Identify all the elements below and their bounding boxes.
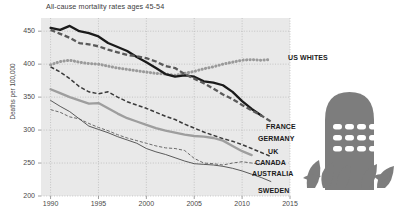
x-tick-label: 2005 [177, 200, 211, 207]
series-label-australia: AUSTRALIA [252, 170, 293, 177]
tombstone-icon [303, 84, 396, 190]
x-tick-label: 1990 [34, 200, 68, 207]
y-tick-label: 350 [9, 93, 35, 100]
x-tick-label: 2015 [273, 200, 307, 207]
y-tick-label: 400 [9, 60, 35, 67]
y-tick-label: 300 [9, 126, 35, 133]
series-label-sweden: SWEDEN [258, 187, 289, 194]
y-tick-label: 250 [9, 159, 35, 166]
chart-title: All-cause mortality rates ages 45-54 [46, 2, 164, 11]
series-label-germany: GERMANY [258, 135, 294, 142]
mortality-line-chart: All-cause mortality rates ages 45-54 Dea… [0, 0, 396, 218]
series-label-france: FRANCE [266, 123, 296, 130]
y-tick-label: 200 [9, 192, 35, 199]
y-tick-label: 450 [9, 27, 35, 34]
x-tick-label: 2000 [129, 200, 163, 207]
x-tick-label: 1995 [81, 200, 115, 207]
series-label-canada: CANADA [255, 159, 286, 166]
series-label-uk: UK [268, 148, 278, 155]
series-label-us-whites: US WHITES [288, 54, 328, 61]
x-tick-label: 2010 [225, 200, 259, 207]
